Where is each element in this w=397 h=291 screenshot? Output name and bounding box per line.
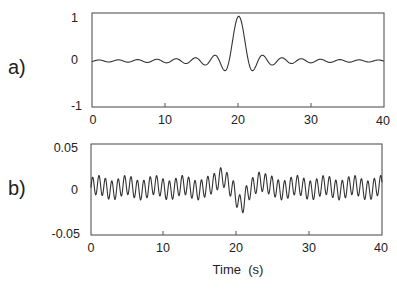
panel-a: a) 1 0 -1 0 10 20 30 40 (8, 11, 390, 128)
panel-a-label: a) (8, 56, 26, 78)
panel-b-ytick-0: 0 (71, 183, 78, 197)
panel-b-label: b) (8, 177, 26, 199)
panel-b-xtick-label: 20 (229, 241, 243, 255)
panel-a-xtick-label: 40 (376, 114, 390, 128)
panel-b-trace (91, 168, 382, 213)
panel-b-ytick-neg: -0.05 (52, 227, 81, 241)
panel-b-xtick-label: 30 (302, 241, 316, 255)
panel-b-frame (91, 144, 382, 235)
panel-b-xtick-label: 40 (374, 241, 388, 255)
panel-a-xtick-label: 10 (158, 113, 172, 127)
panel-b-xtick-label: 0 (88, 241, 95, 255)
figure: a) 1 0 -1 0 10 20 30 40 b) 0.05 0 -0.05 … (0, 0, 397, 291)
panel-b: b) 0.05 0 -0.05 0 10 20 30 40 Time (s) (8, 141, 388, 277)
panel-a-trace (92, 16, 384, 70)
panel-a-xtick-label: 30 (304, 113, 318, 127)
x-axis-title: Time (s) (213, 262, 264, 277)
panel-b-ytick-pos: 0.05 (54, 141, 78, 155)
panel-a-xtick-label: 20 (231, 113, 245, 127)
panel-a-ytick-1: 1 (71, 11, 78, 25)
panel-a-ytick-neg1: -1 (71, 99, 82, 113)
panel-b-xtick-label: 10 (156, 241, 170, 255)
panel-a-ytick-0: 0 (71, 53, 78, 67)
panel-a-xtick-label: 0 (90, 113, 97, 127)
